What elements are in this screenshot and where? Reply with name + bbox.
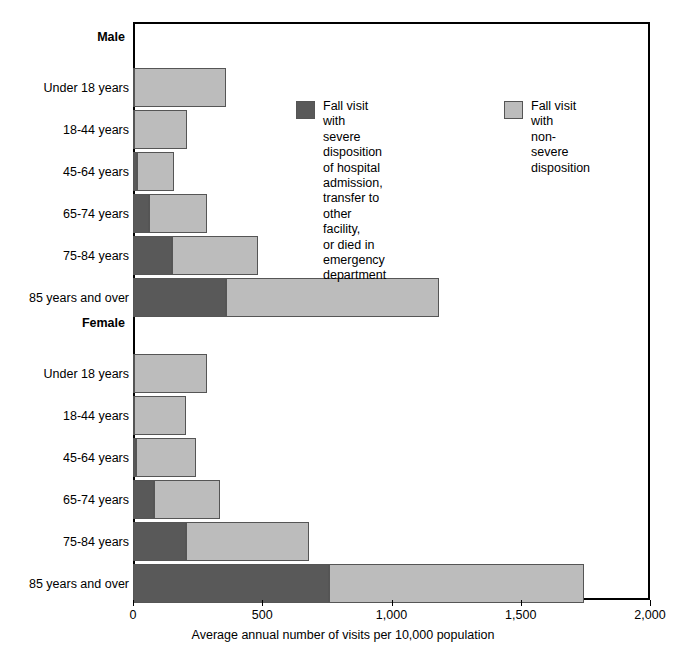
chart-page: Under 18 years18-44 years45-64 years65-7… [0, 0, 686, 661]
category-label: 18-44 years [1, 409, 129, 423]
x-axis-tick [392, 600, 393, 606]
category-label: 65-74 years [1, 493, 129, 507]
bar-segment-nonsevere [172, 236, 259, 275]
bar-segment-severe [133, 354, 135, 393]
legend-label-severe: Fall visit with severe disposition of ho… [323, 99, 386, 284]
bar-segment-nonsevere [134, 68, 226, 107]
category-label: Under 18 years [1, 81, 129, 95]
bar-segment-nonsevere [329, 564, 584, 603]
x-axis-tick-label: 1,500 [505, 608, 536, 622]
x-axis-tick-label: 1,000 [376, 608, 407, 622]
category-label: 45-64 years [1, 451, 129, 465]
x-axis-tick [133, 600, 134, 606]
bar-segment-severe [133, 396, 135, 435]
category-label: 75-84 years [1, 535, 129, 549]
x-axis: 05001,0001,5002,000 [133, 600, 650, 601]
x-axis-tick [262, 600, 263, 606]
legend-swatch-nonsevere-icon [504, 101, 523, 119]
bar-segment-nonsevere [136, 438, 197, 477]
bar-segment-severe [133, 564, 329, 603]
bar-segment-severe [133, 152, 137, 191]
category-label: 85 years and over [1, 291, 129, 305]
bar-segment-severe [133, 236, 172, 275]
bar-segment-nonsevere [134, 354, 206, 393]
bar-segment-severe [133, 522, 186, 561]
category-labels: Under 18 years18-44 years45-64 years65-7… [0, 0, 129, 661]
bar-segment-nonsevere [137, 152, 174, 191]
bar-segment-severe [133, 68, 135, 107]
category-label: 18-44 years [1, 123, 129, 137]
category-label: 65-74 years [1, 207, 129, 221]
bar-segment-nonsevere [134, 110, 187, 149]
category-label: 45-64 years [1, 165, 129, 179]
group-label-male: Male [97, 30, 125, 44]
bar-segment-severe [133, 480, 154, 519]
bar-segment-nonsevere [186, 522, 309, 561]
legend: Fall visit with severe disposition of ho… [296, 99, 656, 199]
group-label-female: Female [82, 316, 125, 330]
bar-segment-severe [133, 110, 135, 149]
x-axis-tick-label: 0 [130, 608, 137, 622]
x-axis-title: Average annual number of visits per 10,0… [0, 628, 686, 642]
x-axis-tick-label: 500 [252, 608, 273, 622]
category-label: Under 18 years [1, 367, 129, 381]
legend-swatch-severe-icon [296, 101, 315, 119]
category-label: 75-84 years [1, 249, 129, 263]
x-axis-tick [650, 600, 651, 606]
x-axis-tick-label: 2,000 [634, 608, 665, 622]
legend-label-nonsevere: Fall visit with non-severe disposition [531, 99, 590, 176]
bar-segment-severe [133, 194, 149, 233]
bar-segment-nonsevere [154, 480, 220, 519]
x-axis-tick [521, 600, 522, 606]
bar-segment-severe [133, 278, 226, 317]
bar-segment-nonsevere [149, 194, 207, 233]
bar-segment-nonsevere [134, 396, 186, 435]
bar-segment-severe [133, 438, 136, 477]
category-label: 85 years and over [1, 577, 129, 591]
